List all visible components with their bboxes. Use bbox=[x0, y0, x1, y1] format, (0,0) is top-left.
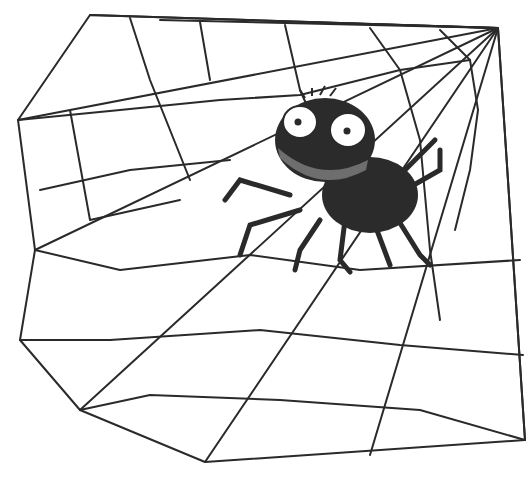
illustration-svg bbox=[0, 0, 528, 481]
spider-web-illustration bbox=[0, 0, 528, 481]
spider bbox=[225, 86, 440, 272]
web bbox=[18, 15, 525, 462]
